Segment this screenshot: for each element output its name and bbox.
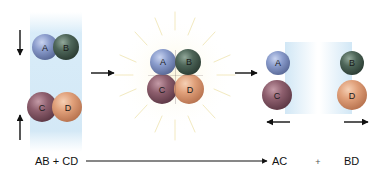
atom-b-label: B <box>349 58 355 68</box>
reaction-diagram-svg: A B C D <box>0 0 390 177</box>
equation-product-ac: AC <box>272 155 287 167</box>
atom-a-label: A <box>275 58 281 68</box>
atom-d-label: D <box>65 103 72 113</box>
atom-c-label: C <box>274 91 281 101</box>
atom-b-label: B <box>63 43 69 53</box>
reactants-stage: A B C D <box>20 12 82 152</box>
intermediate-complex: A B C D <box>147 49 204 104</box>
equation-reactants: AB + CD <box>35 155 78 167</box>
burst-glow <box>117 17 233 133</box>
intermediate-stage: A B C D <box>115 12 235 140</box>
reactant-band <box>30 12 82 152</box>
reaction-diagram: A B C D <box>0 0 390 177</box>
atom-a-label: A <box>42 43 48 53</box>
equation-product-bd: BD <box>344 155 359 167</box>
reaction-equation: AB + CD AC + BD <box>35 155 359 167</box>
atom-d-label: D <box>187 85 194 95</box>
atom-c-label: C <box>159 85 166 95</box>
atom-c-label: C <box>39 103 46 113</box>
products-stage: A C B D <box>262 42 368 122</box>
atom-d-label: D <box>349 91 356 101</box>
atom-b-label: B <box>186 57 192 67</box>
atom-a-label: A <box>160 57 166 67</box>
product-band-left <box>285 42 317 114</box>
equation-plus: + <box>315 157 320 167</box>
